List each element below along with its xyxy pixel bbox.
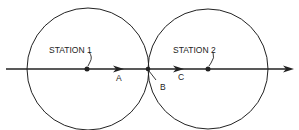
station-1-label: STATION 1 xyxy=(49,45,92,55)
station-2-label: STATION 2 xyxy=(173,45,216,55)
station-1-dot xyxy=(85,67,90,72)
point-b-dot xyxy=(146,67,151,72)
diagram-canvas: STATION 1 STATION 2 A B C xyxy=(0,0,299,130)
station-2-dot xyxy=(206,67,211,72)
point-b-label: B xyxy=(160,82,166,92)
point-c-label: C xyxy=(178,72,184,82)
point-a-label: A xyxy=(116,73,122,83)
point-b-leader xyxy=(149,71,156,80)
